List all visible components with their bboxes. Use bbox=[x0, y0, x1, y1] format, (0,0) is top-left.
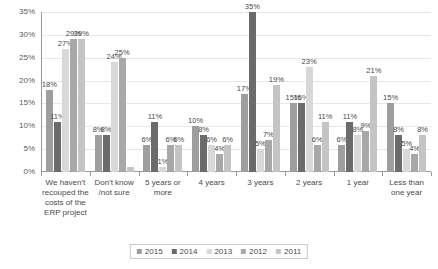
bar-2012[interactable]: 6% bbox=[314, 12, 321, 172]
bar-rect bbox=[370, 76, 377, 172]
bar-2011[interactable]: 21% bbox=[370, 12, 377, 172]
bar-2015[interactable]: 6% bbox=[338, 12, 345, 172]
bar-rect bbox=[54, 122, 61, 172]
x-axis-category-label: 1 year bbox=[334, 178, 383, 218]
bar-rect bbox=[306, 67, 313, 172]
bar-2015[interactable]: 18% bbox=[46, 12, 53, 172]
bar-2012[interactable]: 6% bbox=[167, 12, 174, 172]
bar-2014[interactable]: 11% bbox=[346, 12, 353, 172]
bar-rect bbox=[265, 140, 272, 172]
bar-2013[interactable]: 8% bbox=[354, 12, 361, 172]
bar-rect bbox=[143, 145, 150, 172]
x-axis-tick bbox=[41, 172, 42, 176]
bar-2012[interactable]: 4% bbox=[411, 12, 418, 172]
x-axis-tick bbox=[139, 172, 140, 176]
legend-swatch-icon bbox=[137, 249, 142, 254]
bar-rect bbox=[241, 94, 248, 172]
y-axis-tick-label: 0% bbox=[23, 168, 35, 176]
legend-item-2015[interactable]: 2015 bbox=[137, 247, 163, 256]
x-axis-tick bbox=[334, 172, 335, 176]
x-axis-labels: We haven't recouped the costs of the ERP… bbox=[41, 178, 431, 218]
legend-swatch-icon bbox=[276, 249, 281, 254]
y-axis-tick-label: 15% bbox=[19, 99, 35, 107]
bar-value-label: 35% bbox=[245, 3, 260, 11]
x-axis-tick bbox=[187, 172, 188, 176]
y-axis: 0%5%10%15%20%25%30%35% bbox=[0, 12, 38, 172]
bar-rect bbox=[257, 149, 264, 172]
bar-rect bbox=[354, 135, 361, 172]
legend-item-2014[interactable]: 2014 bbox=[172, 247, 198, 256]
bar-2011[interactable] bbox=[127, 12, 134, 172]
bar-2011[interactable]: 6% bbox=[224, 12, 231, 172]
bar-rect bbox=[78, 39, 85, 172]
bar-rect bbox=[290, 103, 297, 172]
bar-2013[interactable]: 5% bbox=[257, 12, 264, 172]
bar-groups: 18%11%27%29%29%8%8%24%25%6%11%1%6%6%10%8… bbox=[41, 12, 431, 172]
bar-rect bbox=[314, 145, 321, 172]
bar-value-label: 19% bbox=[269, 76, 284, 84]
bar-2012[interactable]: 9% bbox=[362, 12, 369, 172]
x-axis-tick bbox=[285, 172, 286, 176]
bar-2011[interactable]: 6% bbox=[175, 12, 182, 172]
bar-value-label: 8% bbox=[417, 126, 428, 134]
bar-2013[interactable]: 24% bbox=[111, 12, 118, 172]
bar-2014[interactable]: 15% bbox=[298, 12, 305, 172]
bar-group: 15%15%23%6%11% bbox=[285, 12, 334, 172]
x-axis-tick bbox=[431, 172, 432, 176]
bar-group: 8%8%24%25% bbox=[90, 12, 139, 172]
legend-item-2013[interactable]: 2013 bbox=[206, 247, 232, 256]
bar-2014[interactable]: 8% bbox=[200, 12, 207, 172]
bar-value-label: 29% bbox=[74, 30, 89, 38]
bar-rect bbox=[419, 135, 426, 172]
bar-rect bbox=[216, 154, 223, 172]
x-axis-category-label: We haven't recouped the costs of the ERP… bbox=[41, 178, 90, 218]
bar-2012[interactable]: 4% bbox=[216, 12, 223, 172]
bar-2013[interactable]: 23% bbox=[306, 12, 313, 172]
bar-rect bbox=[46, 90, 53, 172]
legend-label: 2011 bbox=[284, 247, 301, 256]
y-axis-tick-label: 35% bbox=[19, 8, 35, 16]
bar-rect bbox=[70, 39, 77, 172]
bar-2011[interactable]: 11% bbox=[322, 12, 329, 172]
bar-2013[interactable]: 1% bbox=[159, 12, 166, 172]
legend-label: 2013 bbox=[214, 247, 232, 256]
bar-2015[interactable]: 6% bbox=[143, 12, 150, 172]
y-axis-tick-label: 10% bbox=[19, 122, 35, 130]
bar-2015[interactable]: 15% bbox=[387, 12, 394, 172]
bar-rect bbox=[298, 103, 305, 172]
bar-2015[interactable]: 15% bbox=[290, 12, 297, 172]
x-axis-category-label: Don't know /not sure bbox=[90, 178, 139, 218]
x-axis-category-label: 5 years or more bbox=[139, 178, 188, 218]
bar-2015[interactable]: 8% bbox=[95, 12, 102, 172]
y-axis-tick-label: 5% bbox=[23, 145, 35, 153]
legend-label: 2015 bbox=[145, 247, 163, 256]
y-axis-tick-label: 25% bbox=[19, 54, 35, 62]
bar-2014[interactable]: 11% bbox=[151, 12, 158, 172]
bar-2015[interactable]: 17% bbox=[241, 12, 248, 172]
bar-rect bbox=[273, 85, 280, 172]
bar-group: 6%11%8%9%21% bbox=[334, 12, 383, 172]
bar-value-label: 6% bbox=[222, 136, 233, 144]
bar-2011[interactable]: 8% bbox=[419, 12, 426, 172]
bar-value-label: 11% bbox=[318, 113, 332, 121]
bar-rect bbox=[387, 103, 394, 172]
bar-value-label: 6% bbox=[173, 136, 184, 144]
bar-2014[interactable]: 11% bbox=[54, 12, 61, 172]
x-axis-ticks bbox=[41, 172, 431, 177]
bar-2015[interactable]: 10% bbox=[192, 12, 199, 172]
legend-label: 2012 bbox=[249, 247, 267, 256]
legend-item-2011[interactable]: 2011 bbox=[276, 247, 301, 256]
bar-2011[interactable]: 29% bbox=[78, 12, 85, 172]
bar-rect bbox=[338, 145, 345, 172]
legend-swatch-icon bbox=[241, 249, 246, 254]
bar-group: 6%11%1%6%6% bbox=[139, 12, 188, 172]
bar-rect bbox=[111, 62, 118, 172]
bar-2012[interactable]: 25% bbox=[119, 12, 126, 172]
legend-item-2012[interactable]: 2012 bbox=[241, 247, 267, 256]
bar-2012[interactable]: 7% bbox=[265, 12, 272, 172]
bar-2011[interactable]: 19% bbox=[273, 12, 280, 172]
x-axis-category-label: 4 years bbox=[187, 178, 236, 218]
bar-rect bbox=[119, 58, 126, 172]
bar-2014[interactable]: 8% bbox=[103, 12, 110, 172]
bar-group: 10%8%6%4%6% bbox=[187, 12, 236, 172]
